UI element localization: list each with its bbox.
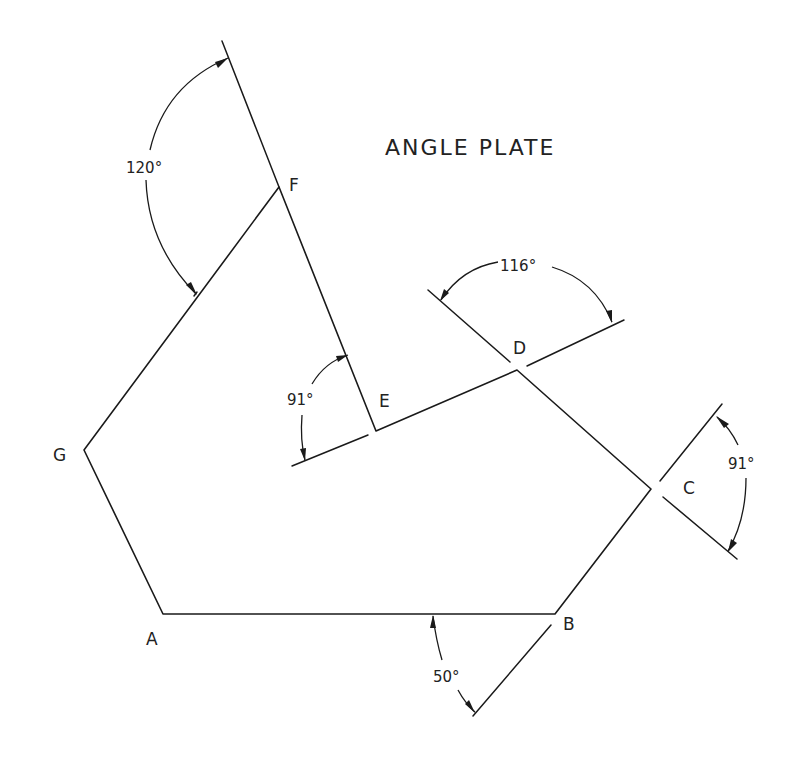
vertex-label-e: E — [379, 391, 390, 411]
arrowhead-c-upper — [716, 416, 729, 428]
extension-line-d-left — [428, 290, 510, 362]
arrowhead-c-lower — [728, 539, 737, 552]
dimension-arc-f-upper — [150, 58, 228, 150]
extension-line-b-lower — [473, 625, 551, 716]
plate-outline — [84, 187, 651, 614]
arrowhead-e-lower — [300, 448, 306, 461]
angle-dimension-e: 91° — [287, 391, 314, 409]
angle-dimension-c: 91° — [728, 455, 755, 473]
vertex-label-g: G — [53, 445, 66, 465]
arrowhead-b-upper — [430, 615, 436, 628]
dimension-arc-d-right — [552, 267, 612, 322]
vertex-label-d: D — [513, 338, 526, 358]
drawing-title: ANGLE PLATE — [385, 135, 555, 160]
dimension-arc-e-upper — [312, 355, 348, 384]
angle-dimension-b: 50° — [433, 668, 460, 686]
arrowhead-e-upper — [336, 355, 348, 362]
extension-line-c-upper — [660, 404, 722, 481]
angle-plate-drawing: ANGLE PLATE A B C D E F G 120° 116° 91° … — [0, 0, 799, 770]
arrowhead-f-lower — [186, 282, 197, 295]
extension-line-f-upper — [222, 41, 279, 187]
dimension-arc-c-lower — [728, 478, 746, 551]
dimension-arc-d-left — [441, 262, 498, 300]
arrowhead-f-upper — [215, 58, 228, 68]
vertex-label-a: A — [146, 629, 158, 649]
angle-dimension-d: 116° — [500, 257, 536, 275]
arrowhead-d-right — [606, 310, 612, 323]
vertex-label-b: B — [563, 614, 575, 634]
extension-line-c-lower — [663, 497, 737, 559]
extension-line-d-right — [527, 320, 624, 366]
dimension-arc-f-lower — [146, 180, 196, 294]
vertex-label-c: C — [683, 478, 695, 498]
vertex-label-f: F — [289, 175, 299, 195]
angle-dimension-f: 120° — [126, 159, 162, 177]
